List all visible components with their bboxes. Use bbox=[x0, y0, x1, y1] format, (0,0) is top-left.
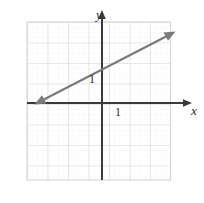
coordinate-plane-svg bbox=[0, 0, 204, 203]
y-axis-label: y bbox=[96, 8, 102, 21]
x-axis-label: x bbox=[191, 104, 197, 117]
x-axis-tick-label-1: 1 bbox=[115, 106, 121, 118]
graph-figure: y x 1 1 bbox=[0, 0, 204, 203]
y-axis-tick-label-1: 1 bbox=[89, 73, 95, 85]
